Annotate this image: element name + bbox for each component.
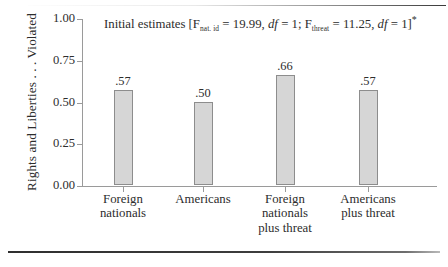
bar-value-label: .50 [195,86,211,101]
x-axis-category-label: Americansplus threat [308,192,428,221]
y-axis-tick-mark [77,144,82,145]
bar-value-label: .57 [115,74,131,89]
y-axis-tick-label: 1.00 [53,11,75,26]
bar-value-label: .57 [360,74,376,89]
bar: .57 [359,90,378,185]
bar-chart-figure: Rights and Liberties . . . Violated Init… [0,0,448,248]
y-axis-tick-label: 0.25 [53,136,75,151]
y-axis-line [82,19,83,187]
bar: .66 [276,75,295,185]
bottom-horizontal-rule [8,251,440,253]
plot-area: 0.000.250.500.751.00 .57.50.66.57 [82,19,437,186]
bar: .50 [194,102,213,186]
y-axis-tick-label: 0.75 [53,53,75,68]
y-axis-tick-label: 0.00 [53,178,75,193]
y-axis-tick-mark [77,19,82,20]
bar-value-label: .66 [277,59,293,74]
y-axis-tick-mark [77,103,82,104]
category-label-line: nationals [63,206,183,220]
category-label-line: plus threat [308,206,428,220]
x-axis-line [82,186,437,187]
y-axis-tick-label: 0.50 [53,95,75,110]
y-axis-title: Rights and Liberties . . . Violated [24,2,40,202]
y-axis-tick-mark [77,186,82,187]
bar: .57 [114,90,133,185]
category-label-line: plus threat [225,221,345,235]
category-label-line: Americans [308,192,428,206]
y-axis-tick-mark [77,61,82,62]
